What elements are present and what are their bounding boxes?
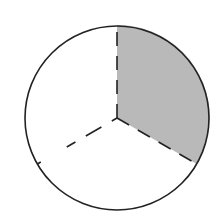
shaded-sector [117,25,210,164]
dashed-radius-lower-left [37,118,117,164]
fraction-circle-diagram: Circle divided into three equal parts wi… [0,0,224,223]
